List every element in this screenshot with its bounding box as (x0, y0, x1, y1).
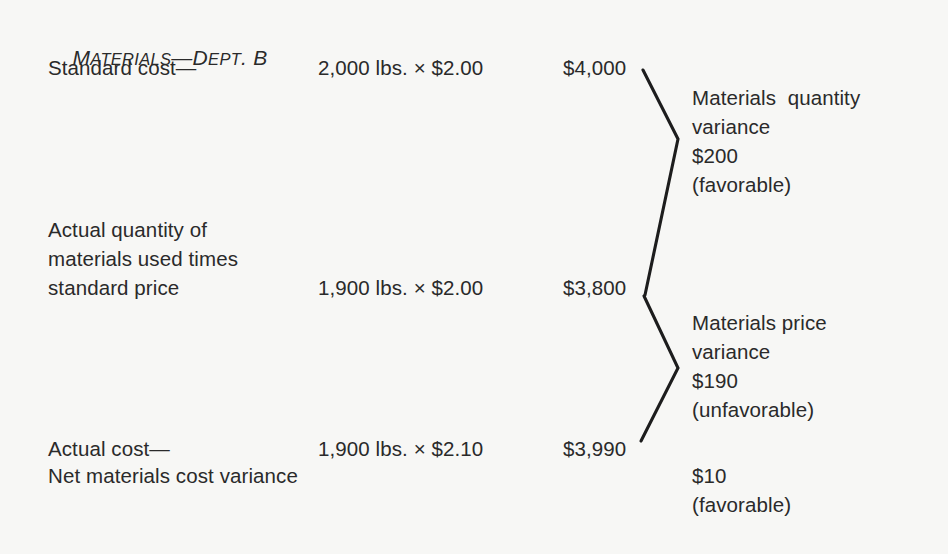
row-actual-quantity-amount: $3,800 (563, 278, 626, 299)
net-variance-direction: (favorable) (692, 495, 791, 516)
row-actual-quantity-quantity: 1,900 lbs. × $2.00 (318, 278, 483, 299)
variance-price-name-line1: Materials price (692, 313, 827, 334)
brace-quantity-variance-icon (643, 70, 678, 295)
net-variance-amount: $10 (692, 466, 727, 487)
row-actual-quantity-label-line1: Actual quantity of (48, 220, 207, 241)
variance-quantity-amount: $200 (692, 146, 738, 167)
brace-price-variance-icon (641, 296, 678, 441)
variance-price-amount: $190 (692, 371, 738, 392)
variance-price-direction: (unfavorable) (692, 400, 814, 421)
row-actual-quantity-label-line3: standard price (48, 278, 179, 299)
title-dept-b: . B (241, 46, 268, 69)
row-standard-cost-quantity: 2,000 lbs. × $2.00 (318, 58, 483, 79)
materials-variance-figure: MATERIALS—DEPT. B Standard cost— 2,000 l… (0, 0, 948, 554)
row-actual-cost-amount: $3,990 (563, 439, 626, 460)
variance-quantity-name-line1: Materials quantity (692, 88, 860, 109)
row-actual-cost-label: Actual cost— (48, 439, 170, 460)
row-standard-cost-label: Standard cost— (48, 58, 196, 79)
variance-price-name-line2: variance (692, 342, 770, 363)
row-actual-quantity-label-line2: materials used times (48, 249, 238, 270)
row-standard-cost-amount: $4,000 (563, 58, 626, 79)
variance-quantity-direction: (favorable) (692, 175, 791, 196)
title-word-ept: EPT (208, 50, 241, 68)
variance-quantity-name-line2: variance (692, 117, 770, 138)
row-actual-cost-quantity: 1,900 lbs. × $2.10 (318, 439, 483, 460)
row-net-variance-label: Net materials cost variance (48, 466, 298, 487)
